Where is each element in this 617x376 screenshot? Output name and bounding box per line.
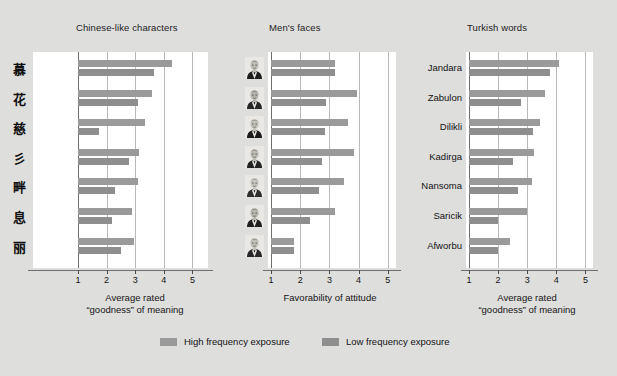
- x-tick: [388, 270, 389, 274]
- bar: [78, 60, 172, 67]
- x-tick-label: 1: [264, 275, 278, 285]
- bar: [271, 208, 335, 215]
- character-glyph: 息: [8, 207, 30, 226]
- x-tick-label: 2: [100, 275, 114, 285]
- x-tick: [469, 270, 470, 274]
- legend-label: Low frequency exposure: [346, 336, 450, 347]
- x-axis-line: [28, 270, 213, 271]
- bar: [271, 247, 294, 254]
- bar: [469, 119, 540, 126]
- legend-item: High frequency exposure: [160, 336, 290, 347]
- bar: [78, 217, 112, 224]
- x-tick-label: 4: [157, 275, 171, 285]
- panel-title: Turkish words: [467, 22, 527, 33]
- bar: [271, 99, 326, 106]
- gridline: [388, 52, 389, 268]
- character-glyph: 畔: [8, 177, 30, 196]
- x-axis-line: [461, 270, 598, 271]
- bar: [78, 238, 134, 245]
- character-glyph: 慕: [8, 59, 30, 78]
- bar: [78, 178, 138, 185]
- x-tick: [107, 270, 108, 274]
- gridline: [192, 52, 193, 268]
- face-thumbnail: [245, 87, 264, 109]
- bar: [78, 90, 152, 97]
- bar: [271, 149, 354, 156]
- bar: [78, 149, 139, 156]
- bar: [271, 158, 322, 165]
- x-tick-label: 1: [462, 275, 476, 285]
- bar: [469, 238, 510, 245]
- gridline: [164, 52, 165, 268]
- category-label: Zabulon: [428, 92, 462, 103]
- bar: [78, 247, 121, 254]
- x-tick-label: 2: [491, 275, 505, 285]
- character-glyph: 丽: [8, 237, 30, 256]
- face-thumbnail: [245, 235, 264, 257]
- x-tick-label: 3: [128, 275, 142, 285]
- x-tick: [359, 270, 360, 274]
- x-tick: [300, 270, 301, 274]
- x-tick: [192, 270, 193, 274]
- x-tick-label: 3: [322, 275, 336, 285]
- bar: [469, 247, 498, 254]
- x-axis-caption-line1: Favorability of attitude: [284, 292, 377, 304]
- x-tick: [78, 270, 79, 274]
- bar: [271, 217, 310, 224]
- x-tick-label: 3: [520, 275, 534, 285]
- bar: [78, 208, 132, 215]
- category-label: Kadirga: [429, 151, 462, 162]
- x-tick-label: 4: [352, 275, 366, 285]
- bar: [271, 90, 357, 97]
- bar: [271, 238, 294, 245]
- bar: [271, 187, 319, 194]
- x-tick-label: 1: [71, 275, 85, 285]
- x-tick-label: 2: [293, 275, 307, 285]
- x-axis-caption-line2: “goodness” of meaning: [86, 304, 183, 316]
- x-axis-caption: Average rated“goodness” of meaning: [86, 292, 183, 316]
- bar: [469, 208, 527, 215]
- category-label: Afworbu: [427, 240, 462, 251]
- legend-swatch: [160, 338, 177, 346]
- face-thumbnail: [245, 57, 264, 79]
- panel-title: Chinese-like characters: [76, 22, 178, 33]
- character-glyph: 彡: [8, 148, 30, 167]
- x-axis-caption: Average rated“goodness” of meaning: [478, 292, 575, 316]
- bar: [469, 128, 533, 135]
- x-tick-label: 5: [381, 275, 395, 285]
- bar: [271, 119, 348, 126]
- x-tick: [135, 270, 136, 274]
- x-tick: [585, 270, 586, 274]
- face-thumbnail: [245, 116, 264, 138]
- legend-swatch: [322, 338, 339, 346]
- x-axis-caption-line2: “goodness” of meaning: [478, 304, 575, 316]
- bar: [469, 69, 550, 76]
- gridline: [359, 52, 360, 268]
- category-label: Saricik: [433, 210, 462, 221]
- bar: [469, 178, 532, 185]
- bar: [469, 158, 513, 165]
- face-thumbnail: [245, 146, 264, 168]
- bar: [271, 178, 344, 185]
- bar: [469, 99, 521, 106]
- character-glyph: 花: [8, 89, 30, 108]
- face-thumbnail: [245, 175, 264, 197]
- category-label: Dilikli: [440, 121, 462, 132]
- legend-label: High frequency exposure: [184, 336, 290, 347]
- x-tick: [329, 270, 330, 274]
- x-axis-caption-line1: Average rated: [478, 292, 575, 304]
- x-axis-caption-line1: Average rated: [86, 292, 183, 304]
- x-axis-caption: Favorability of attitude: [284, 292, 377, 304]
- x-tick-label: 5: [578, 275, 592, 285]
- x-tick-label: 5: [185, 275, 199, 285]
- x-tick: [527, 270, 528, 274]
- bar: [78, 128, 99, 135]
- gridline: [329, 52, 330, 268]
- legend-item: Low frequency exposure: [322, 336, 450, 347]
- bar: [469, 217, 498, 224]
- x-tick: [556, 270, 557, 274]
- face-thumbnail: [245, 205, 264, 227]
- figure-canvas: Chinese-like characters12345Average rate…: [0, 0, 617, 376]
- gridline: [527, 52, 528, 268]
- bar: [271, 69, 335, 76]
